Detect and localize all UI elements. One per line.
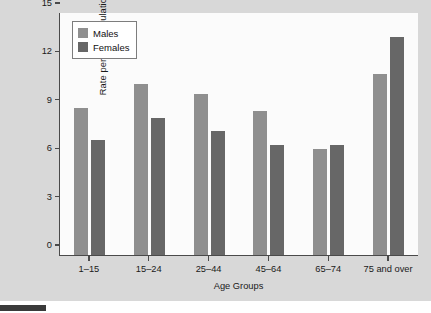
bar-group <box>194 13 225 255</box>
y-tick-label: 0 <box>47 240 52 250</box>
legend: Males Females <box>72 21 137 59</box>
y-tick-15: 15 <box>42 0 60 8</box>
x-axis-labels: 1–1515–2425–4445–6465–7475 and over <box>59 264 418 274</box>
y-tick-9: 9 <box>47 95 60 105</box>
bar-males <box>253 111 267 255</box>
bar-females <box>330 145 344 255</box>
bar-group <box>373 13 404 255</box>
bar-males <box>373 74 387 255</box>
bar-females <box>91 140 105 255</box>
legend-label-females: Females <box>93 42 129 53</box>
bar-group <box>134 13 165 255</box>
x-tick-mark <box>208 256 209 261</box>
bar-females <box>270 145 284 256</box>
y-tick-3: 3 <box>47 192 60 202</box>
legend-item-females: Females <box>78 40 129 54</box>
bar-males <box>194 94 208 255</box>
x-axis-label: 25–44 <box>179 264 239 274</box>
y-tick-mark <box>55 2 60 3</box>
y-tick-label: 12 <box>42 46 52 56</box>
bar-females <box>390 37 404 255</box>
figure-panel: Rate per 100 Population 03691215 Males F… <box>0 0 431 301</box>
bottom-marker-strip <box>0 305 46 311</box>
y-tick-label: 6 <box>47 143 52 153</box>
x-tick <box>59 256 119 263</box>
x-tick <box>238 256 298 263</box>
x-tick-mark <box>148 256 149 261</box>
x-tick <box>119 256 179 263</box>
legend-label-males: Males <box>93 28 118 39</box>
bar-group <box>253 13 284 255</box>
x-tick-mark <box>328 256 329 261</box>
legend-item-males: Males <box>78 26 129 40</box>
bar-females <box>151 118 165 255</box>
bar-males <box>74 108 88 255</box>
x-tick-mark <box>88 256 89 261</box>
x-axis-label: 45–64 <box>238 264 298 274</box>
x-tick <box>298 256 358 263</box>
y-tick-label: 15 <box>42 0 52 8</box>
x-axis-label: 75 and over <box>358 264 418 274</box>
y-tick-0: 0 <box>47 240 60 250</box>
x-tick-mark <box>268 256 269 261</box>
x-axis-title: Age Groups <box>59 281 418 291</box>
x-axis-label: 15–24 <box>119 264 179 274</box>
y-tick-label: 9 <box>47 95 52 105</box>
plot-area: Rate per 100 Population 03691215 Males F… <box>59 13 418 256</box>
x-tick-mark <box>387 256 388 261</box>
bar-males <box>313 149 327 255</box>
figure-page: Rate per 100 Population 03691215 Males F… <box>0 0 431 313</box>
y-tick-6: 6 <box>47 143 60 153</box>
bar-females <box>211 131 225 255</box>
females-swatch-icon <box>78 42 88 52</box>
x-axis-label: 1–15 <box>59 264 119 274</box>
x-tick <box>179 256 239 263</box>
bar-males <box>134 84 148 255</box>
y-tick-label: 3 <box>47 192 52 202</box>
x-axis-label: 65–74 <box>298 264 358 274</box>
x-tick <box>358 256 418 263</box>
bar-group <box>313 13 344 255</box>
y-tick-12: 12 <box>42 46 60 56</box>
males-swatch-icon <box>78 28 88 38</box>
x-axis-ticks <box>59 256 418 263</box>
